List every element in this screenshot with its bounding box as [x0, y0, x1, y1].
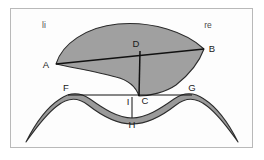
- diagram-canvas: A B C D F G H I li re: [0, 0, 264, 160]
- point-label-G: G: [188, 82, 195, 93]
- point-label-I: I: [127, 96, 130, 107]
- side-label-left: li: [42, 20, 46, 30]
- upper-wedge-shape: [56, 24, 204, 96]
- segment-D-C: [139, 51, 140, 96]
- point-label-F: F: [63, 82, 69, 93]
- upper-wedge-path: [56, 24, 204, 96]
- side-label-right: re: [204, 20, 212, 30]
- point-label-C: C: [142, 95, 149, 106]
- point-label-B: B: [209, 43, 215, 54]
- point-label-D: D: [133, 38, 140, 49]
- point-label-H: H: [129, 119, 136, 130]
- figure-root: A B C D F G H I li re: [0, 0, 264, 160]
- point-label-A: A: [43, 59, 50, 70]
